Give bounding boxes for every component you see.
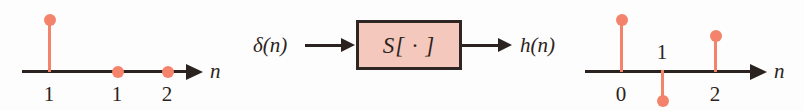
system-block-label: S[ · ]: [383, 34, 436, 57]
right-stem-dot-2: [710, 30, 722, 42]
left-stem-dot-3: [162, 66, 174, 78]
right-stem-dot-1: [657, 95, 669, 107]
left-plot-tick-label-2: 2: [152, 84, 182, 105]
output-connector-arrow: [498, 38, 512, 52]
left-plot-axis-label: n: [210, 61, 221, 82]
left-stem-dot-2: [112, 66, 124, 78]
right-stem-line-0: [620, 20, 623, 72]
right-plot-axis-label: n: [774, 61, 785, 82]
system-block: S[ · ]: [356, 20, 462, 70]
left-plot-tick-label-0: 1: [34, 84, 64, 105]
input-connector-arrow: [341, 38, 355, 52]
input-signal-label: δ(n): [253, 35, 287, 56]
input-connector: [305, 44, 341, 47]
left-plot-axis-arrow: [186, 64, 203, 80]
output-connector: [462, 44, 498, 47]
right-stem-dot-0: [616, 14, 628, 26]
left-stem-dot-1: [44, 14, 56, 26]
right-plot-tick-label-0: 0: [606, 84, 636, 105]
right-plot-tick-label-1: 1: [647, 42, 677, 63]
right-plot-tick-label-2: 2: [700, 84, 730, 105]
impulse-response-figure: n 1 1 2 δ(n) S[ · ] h(n) n: [0, 0, 804, 111]
left-stem-line-1: [48, 20, 51, 72]
output-signal-label: h(n): [520, 35, 555, 56]
left-plot-tick-label-1: 1: [102, 84, 132, 105]
right-plot-axis: [585, 70, 752, 73]
right-plot-axis-arrow: [750, 64, 767, 80]
